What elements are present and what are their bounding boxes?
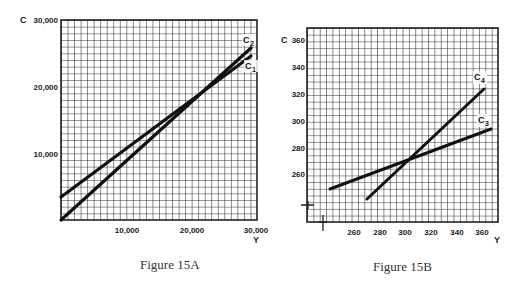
y-axis-title-15b: C	[281, 35, 288, 45]
svg-text:4: 4	[481, 77, 485, 84]
caption-figure-15b: Figure 15B	[373, 259, 432, 275]
x-tick-340-15b: 340	[450, 228, 464, 237]
x-tick-20000-15a: 20,000	[180, 226, 205, 235]
plot-area-15b	[307, 28, 498, 222]
svg-text:C: C	[243, 35, 250, 45]
x-tick-360-15b: 360	[475, 228, 489, 237]
label-c4: C 4	[473, 71, 487, 84]
figures-canvas: C 30,000 20,000 10,000 10,000 20,000 30,…	[0, 0, 530, 282]
y-tick-340-15b: 340	[292, 63, 306, 72]
x-tick-320-15b: 320	[424, 228, 438, 237]
x-tick-300-15b: 300	[398, 228, 412, 237]
plot-area-15a	[61, 20, 257, 220]
label-c1: C 1	[244, 60, 258, 73]
x-tick-30000-15a: 30,000	[244, 226, 269, 235]
x-tick-260-15b: 260	[347, 228, 361, 237]
label-c3: C 3	[477, 114, 491, 127]
svg-text:3: 3	[485, 120, 489, 127]
caption-figure-15a: Figure 15A	[140, 257, 200, 273]
y-tick-10000-15a: 10,000	[34, 150, 59, 159]
x-axis-title-15a: Y	[253, 235, 259, 245]
label-c2: C 2	[242, 34, 256, 47]
y-tick-300-15b: 300	[292, 117, 306, 126]
figure-15a: C 30,000 20,000 10,000 10,000 20,000 30,…	[20, 15, 269, 245]
svg-text:2: 2	[250, 40, 254, 47]
y-tick-20000-15a: 20,000	[34, 83, 59, 92]
y-tick-260-15b: 260	[292, 170, 306, 179]
svg-text:C: C	[478, 115, 485, 125]
figure-15b: C 360 340 320 300 280 260 260 280 300 32…	[281, 28, 500, 245]
svg-text:C: C	[474, 72, 481, 82]
y-tick-30000-15a: 30,000	[34, 16, 59, 25]
x-tick-280-15b: 280	[373, 228, 387, 237]
x-tick-10000-15a: 10,000	[115, 226, 140, 235]
x-axis-title-15b: Y	[494, 235, 500, 245]
svg-text:1: 1	[252, 66, 256, 73]
y-tick-320-15b: 320	[292, 90, 306, 99]
y-axis-title-15a: C	[20, 15, 27, 25]
svg-text:C: C	[245, 61, 252, 71]
y-tick-280-15b: 280	[292, 144, 306, 153]
y-tick-360-15b: 360	[292, 36, 306, 45]
